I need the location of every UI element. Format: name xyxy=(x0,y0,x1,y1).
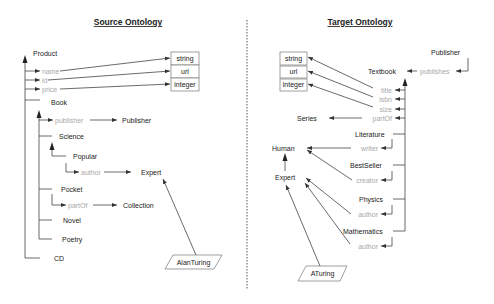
datatype-label: integer xyxy=(283,81,305,89)
creator-range-link xyxy=(307,150,352,180)
target-prop-title: title xyxy=(381,87,392,94)
target-ontology-title: Target Ontology xyxy=(327,17,392,27)
source-class-publisher: Publisher xyxy=(122,117,152,124)
subclass-arrowhead-icon xyxy=(37,110,42,118)
source-class-collection: Collection xyxy=(123,202,154,209)
target-prop-author-physics: author xyxy=(358,211,379,218)
instance-of-link xyxy=(163,179,196,255)
subclass-arrowhead-icon xyxy=(50,142,55,150)
datatype-label: integer xyxy=(174,81,196,89)
source-class-expert: Expert xyxy=(141,169,161,177)
source-class-popular: Popular xyxy=(73,153,98,161)
target-prop-creator: creator xyxy=(356,177,378,184)
target-class-expert: Expert xyxy=(275,174,295,182)
source-prop-name: name xyxy=(42,68,60,75)
name-to-string xyxy=(60,58,170,71)
datatype-label: string xyxy=(176,55,193,63)
target-class-literature: Literature xyxy=(355,131,385,138)
target-class-bestseller: BestSeller xyxy=(350,162,383,169)
target-class-mathematics: Mathematics xyxy=(343,228,383,235)
author-link xyxy=(66,163,79,172)
source-class-pocket: Pocket xyxy=(61,186,82,193)
source-class-science: Science xyxy=(59,133,84,140)
instance-of-link xyxy=(286,185,320,266)
size-to-integer xyxy=(308,84,373,107)
source-class-book: Book xyxy=(51,99,67,106)
datatype-label: string xyxy=(285,55,302,63)
writer-domain-link xyxy=(381,139,392,148)
target-class-series: Series xyxy=(297,115,317,122)
target-prop-writer: writer xyxy=(360,145,379,152)
source-instance-alanturing: AlanTuring xyxy=(177,259,211,267)
source-prop-author: author xyxy=(81,169,102,176)
source-class-novel: Novel xyxy=(63,217,81,224)
subclass-arrowhead-icon xyxy=(403,78,408,86)
datatype-label: url xyxy=(181,68,189,75)
subclass-arrowhead-icon xyxy=(283,153,288,161)
target-prop-isbn: isbn xyxy=(379,96,392,103)
isbn-to-url xyxy=(308,71,373,97)
target-class-textbook: Textbook xyxy=(368,68,397,75)
datatype-label: url xyxy=(290,68,298,75)
source-prop-price: price xyxy=(42,86,57,94)
target-prop-partof: partOf xyxy=(373,115,393,123)
target-class-physics: Physics xyxy=(359,196,384,204)
source-ontology-title: Source Ontology xyxy=(94,17,163,27)
title-to-string xyxy=(308,57,373,88)
source-class-product: Product xyxy=(33,50,57,57)
author-math-range-link xyxy=(305,183,350,244)
source-prop-partof: partOf xyxy=(68,202,88,210)
author-physics-domain-link xyxy=(381,205,392,214)
source-class-cd: CD xyxy=(54,255,64,262)
id-to-url xyxy=(48,71,170,80)
ontology-diagram: Source Ontology Product name id price st… xyxy=(0,0,494,304)
publishes-domain-link xyxy=(456,58,468,71)
target-instance-aturing: ATuring xyxy=(311,270,335,278)
subclass-arrowhead-icon xyxy=(23,55,28,63)
source-prop-publisher: publisher xyxy=(55,117,84,125)
author-math-domain-link xyxy=(381,237,392,246)
author-physics-range-link xyxy=(306,178,351,214)
partof-link xyxy=(52,194,66,205)
target-class-human: Human xyxy=(272,145,295,152)
target-prop-size: size xyxy=(380,106,393,113)
source-class-poetry: Poetry xyxy=(62,236,83,244)
target-prop-author-math: author xyxy=(358,243,379,250)
target-class-publisher: Publisher xyxy=(431,49,461,56)
target-prop-publishes: publishes xyxy=(420,68,450,76)
price-to-integer xyxy=(60,84,170,89)
source-prop-id: id xyxy=(42,77,48,84)
creator-domain-link xyxy=(381,171,392,180)
